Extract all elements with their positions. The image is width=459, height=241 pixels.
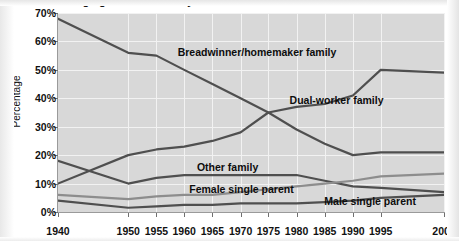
x-tick-mark: [184, 213, 185, 217]
x-tick-mark: [325, 213, 326, 217]
series-label: Other family: [197, 162, 258, 173]
x-tick-mark: [444, 213, 445, 217]
x-axis-line: [57, 212, 445, 213]
series-label: Female single parent: [189, 184, 293, 195]
y-tick-label: 30%: [22, 122, 56, 132]
edge-vignette-right: [447, 0, 459, 241]
series-label: Dual-worker family: [290, 95, 384, 106]
series-line: [58, 19, 444, 155]
x-tick-label: 1940: [38, 226, 78, 237]
y-tick-label: 0%: [22, 207, 56, 217]
gridline-vertical: [444, 13, 445, 212]
y-tick-label: 40%: [22, 93, 56, 103]
y-tick-label: 70%: [22, 8, 56, 18]
series-label: Male single parent: [324, 196, 416, 207]
y-tick-label: 10%: [22, 179, 56, 189]
series-label: Breadwinner/homemaker family: [178, 47, 337, 58]
y-tick-label: 20%: [22, 150, 56, 160]
edge-vignette-top: [0, 0, 459, 6]
y-axis-ticks: 0%10%20%30%40%50%60%70%: [20, 0, 56, 241]
x-tick-mark: [241, 213, 242, 217]
y-tick-label: 60%: [22, 36, 56, 46]
x-tick-mark: [381, 213, 382, 217]
edge-vignette-left: [0, 0, 14, 241]
x-axis-ticks: 1940195019551960196519701975198019851990…: [0, 222, 459, 238]
y-tick-label: 50%: [22, 65, 56, 75]
x-tick-mark: [58, 213, 59, 217]
edge-vignette-bottom: [0, 237, 459, 241]
x-tick-mark: [297, 213, 298, 217]
x-tick-mark: [128, 213, 129, 217]
line-chart: Changing American family structure 0%10%…: [0, 0, 459, 241]
x-tick-label: 1995: [361, 226, 401, 237]
x-tick-mark: [212, 213, 213, 217]
x-tick-mark: [268, 213, 269, 217]
x-tick-mark: [156, 213, 157, 217]
x-tick-mark: [353, 213, 354, 217]
